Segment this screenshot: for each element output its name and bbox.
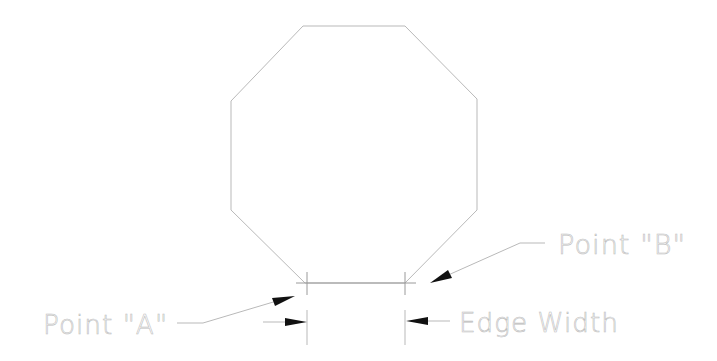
arrowhead-point-a (272, 296, 295, 306)
dimension-arrowhead-left (285, 318, 307, 326)
label-point-a: Point "A" (43, 309, 168, 340)
leader-point-a (177, 300, 280, 323)
octagon-outline (231, 26, 477, 283)
label-edge-width: Edge Width (459, 307, 619, 338)
dimension-arrowhead-right (406, 317, 428, 325)
arrowhead-point-b (430, 270, 452, 283)
octagon-diagram: Point "A" Point "B" Edge Width (0, 0, 717, 361)
leader-point-b (446, 243, 545, 276)
label-point-b: Point "B" (558, 229, 686, 260)
